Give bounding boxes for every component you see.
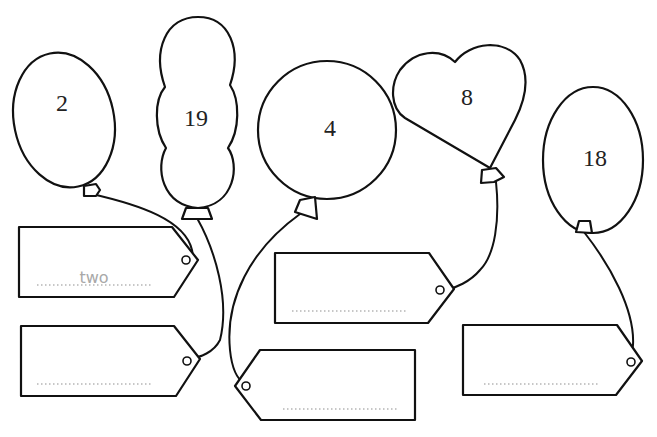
balloon-18: 18 bbox=[543, 87, 643, 233]
answer-tag-3[interactable] bbox=[275, 253, 454, 323]
answer-tag-5[interactable] bbox=[463, 325, 642, 395]
answer-text[interactable]: two bbox=[79, 268, 108, 287]
answer-tag-4[interactable] bbox=[235, 350, 415, 420]
tag-hole-icon bbox=[436, 286, 444, 294]
tag-hole-icon bbox=[242, 382, 250, 390]
balloon-number: 19 bbox=[184, 105, 208, 131]
string-19-to-tag-2 bbox=[190, 218, 223, 358]
balloon-2: 2 bbox=[1, 43, 127, 197]
balloon-knot-icon bbox=[481, 168, 504, 183]
balloon-number: 4 bbox=[324, 115, 336, 141]
string-8-to-tag-3 bbox=[446, 182, 497, 290]
balloon-19: 19 bbox=[157, 17, 237, 219]
tag-hole-icon bbox=[183, 357, 191, 365]
balloon-knot-icon bbox=[84, 184, 100, 196]
balloon-number: 18 bbox=[583, 145, 607, 171]
balloon-knot-icon bbox=[576, 221, 592, 233]
balloon-number: 2 bbox=[56, 90, 68, 116]
tag-hole-icon bbox=[627, 358, 635, 366]
tag-hole-icon bbox=[182, 256, 190, 264]
balloon-worksheet: 2 19 4 8 18 two bbox=[0, 0, 657, 437]
balloon-number: 8 bbox=[461, 84, 473, 110]
answer-tag-2[interactable] bbox=[21, 326, 200, 396]
balloon-knot-icon bbox=[182, 208, 212, 219]
balloon-8: 8 bbox=[393, 45, 525, 183]
answer-tag-1[interactable]: two bbox=[19, 227, 198, 297]
balloon-4: 4 bbox=[258, 61, 396, 219]
